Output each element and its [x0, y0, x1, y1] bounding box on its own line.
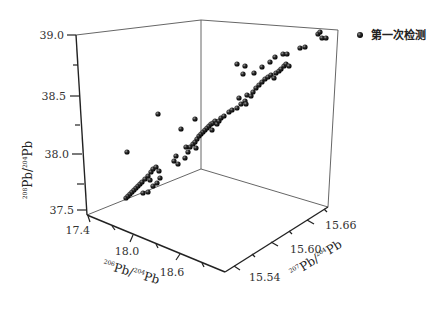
data-point: [221, 113, 226, 118]
z-tick-label: 38.5: [42, 90, 67, 103]
data-point: [272, 54, 277, 59]
data-point: [145, 189, 150, 194]
x-tick-label: 18.0: [115, 245, 140, 258]
data-point: [271, 75, 276, 80]
data-point: [192, 116, 197, 121]
svg-text:206Pb/204Pb: 206Pb/204Pb: [101, 257, 161, 287]
data-point: [147, 177, 152, 182]
data-point: [240, 71, 245, 76]
data-point: [156, 168, 161, 173]
svg-text:208Pb/204Pb: 208Pb/204Pb: [21, 140, 35, 199]
z-axis-ticks: [67, 35, 86, 210]
data-points: [123, 29, 328, 200]
data-point: [229, 107, 234, 112]
data-point: [297, 45, 302, 50]
data-point: [234, 61, 239, 66]
data-point: [193, 145, 198, 150]
data-point: [323, 35, 328, 40]
x-tick-label: 17.4: [66, 224, 91, 237]
data-point: [286, 63, 291, 68]
y-tick-label: 15.66: [325, 219, 357, 232]
data-point: [154, 180, 159, 185]
data-point: [183, 144, 188, 149]
data-point: [243, 101, 248, 106]
data-point: [178, 126, 183, 131]
data-point: [251, 70, 256, 75]
data-point: [157, 175, 162, 180]
data-point: [284, 51, 289, 56]
data-point: [182, 155, 187, 160]
x-axis-title: 206Pb/204Pb: [101, 257, 161, 287]
data-point: [302, 44, 307, 49]
data-point: [185, 149, 190, 154]
data-point: [317, 29, 322, 34]
y-tick-label: 15.54: [249, 271, 281, 284]
data-point: [209, 127, 214, 132]
z-axis-tick-labels: 39.0 38.5 38.0 37.5: [40, 29, 75, 217]
legend-marker-icon: [357, 32, 363, 38]
z-tick-label: 38.0: [45, 148, 70, 161]
z-tick-label: 39.0: [40, 29, 65, 42]
z-tick-label: 37.5: [50, 204, 75, 217]
legend-label: 第一次检测: [371, 28, 426, 42]
x-tick-label: 18.6: [160, 266, 185, 279]
data-point: [155, 111, 160, 116]
data-point: [259, 64, 264, 69]
z-axis-title: 208Pb/204Pb: [21, 140, 35, 199]
data-point: [234, 105, 239, 110]
axes: [76, 35, 328, 272]
data-point: [236, 95, 241, 100]
data-point: [175, 161, 180, 166]
data-point: [124, 149, 129, 154]
scatter-3d-chart: 39.0 38.5 38.0 37.5 17.4 18.0 18.6 15.54…: [0, 0, 445, 319]
data-point: [173, 153, 178, 158]
data-point: [267, 59, 272, 64]
data-point: [140, 190, 145, 195]
data-point: [242, 63, 247, 68]
legend: 第一次检测: [357, 28, 426, 42]
